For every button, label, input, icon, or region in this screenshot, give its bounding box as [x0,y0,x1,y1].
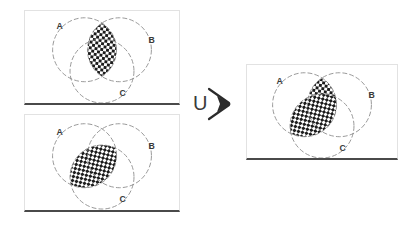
label-set-a: A [56,21,63,31]
label-set-b: B [149,141,155,151]
label-set-b: B [369,90,375,100]
label-set-b: B [148,35,154,45]
second-operand-panel: A B C [24,114,180,212]
figure-canvas: A B C [0,0,420,227]
venn-diagram-union-result: A B C [247,65,397,158]
label-set-a: A [276,76,283,86]
label-set-a: A [56,127,63,137]
union-symbol: U [193,92,207,114]
union-operator-group: U [192,82,240,126]
union-and-arrow-svg: U [192,82,240,126]
venn-diagram-a-intersect-b: A B C [25,11,179,103]
result-panel: A B C [246,64,398,160]
first-operand-panel: A B C [24,10,180,105]
shaded-region-a-intersect-b [26,11,177,103]
label-set-c: C [119,88,126,98]
label-set-c: C [119,194,126,204]
venn-diagram-a-intersect-c: A B C [25,115,179,210]
label-set-c: C [339,143,346,153]
